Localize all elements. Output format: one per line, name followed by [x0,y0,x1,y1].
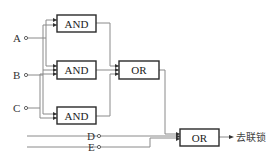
input-A-wiring [27,20,57,66]
gate-and1: AND [57,15,96,32]
gate-and1-label: AND [65,18,89,30]
input-label-C: C [13,102,20,114]
gate-or1: OR [119,61,159,79]
input-C-wiring [27,74,57,118]
gate-and3-label: AND [65,110,89,122]
input-label-B: B [13,69,20,81]
gate-and2-label: AND [65,64,89,76]
gate-and2: AND [57,61,96,79]
input-label-A: A [13,32,21,44]
terminal-E [97,145,100,148]
gate-or1-label: OR [131,64,147,76]
gate-or2-label: OR [192,132,208,144]
gate-and3: AND [57,107,96,124]
gate-or2: OR [180,129,219,146]
terminal-C [24,106,27,109]
logic-diagram: AND AND AND OR OR A B C D E 去联锁 [0,0,276,165]
and-to-or-wiring [96,23,119,116]
output-wiring [219,135,234,139]
input-label-E: E [88,141,95,153]
output-label: 去联锁 [236,131,266,143]
terminal-D [97,134,100,137]
terminal-A [24,36,27,39]
or1-to-or2-wiring [27,70,180,147]
terminal-B [24,73,27,76]
